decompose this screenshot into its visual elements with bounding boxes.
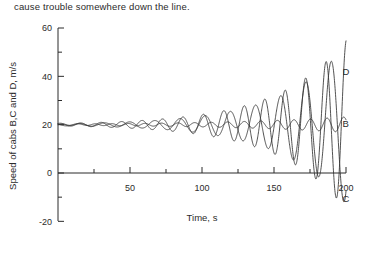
y-tick-label: 40	[42, 72, 52, 82]
x-tick-label: 150	[266, 183, 281, 193]
x-axis-title: Time, s	[187, 212, 218, 223]
series-curve-d	[58, 41, 346, 198]
series-label-b: B	[342, 118, 348, 129]
y-tick-label: 60	[42, 23, 52, 33]
y-tick-label: 20	[42, 120, 52, 130]
chart-series-group	[58, 41, 346, 202]
page-root: cause trouble somewhere down the line. -…	[0, 0, 380, 265]
y-axis-title: Speed of cabs B,C and D, m/s	[7, 62, 18, 190]
y-tick-label: 0	[47, 168, 52, 178]
series-label-c: C	[342, 193, 349, 204]
x-tick-label: 100	[194, 183, 209, 193]
speed-vs-time-line-chart: -200204060 50100150200 BCD Time, s Speed…	[0, 16, 380, 265]
x-tick-label: 50	[125, 183, 135, 193]
body-paragraph: cause trouble somewhere down the line.	[14, 1, 190, 12]
x-tick-group: 50100150200	[94, 167, 354, 193]
chart-figure: -200204060 50100150200 BCD Time, s Speed…	[0, 16, 380, 265]
y-tick-label: -20	[39, 217, 52, 227]
series-label-d: D	[342, 66, 349, 77]
series-curve-c	[58, 61, 346, 201]
